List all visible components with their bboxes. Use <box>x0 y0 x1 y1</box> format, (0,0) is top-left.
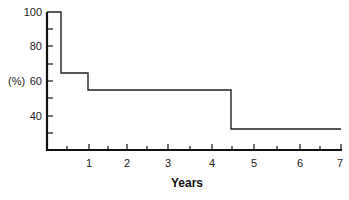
step-series-line <box>47 12 341 129</box>
step-chart: 100 80 60 40 (%) 1 2 3 4 5 6 7 Years <box>0 0 349 200</box>
x-axis-title: Years <box>171 176 203 190</box>
y-axis-title: (%) <box>8 75 25 87</box>
x-tick-label-2: 2 <box>124 157 130 169</box>
x-tick-label-1: 1 <box>86 157 92 169</box>
y-tick-label-60: 60 <box>30 75 42 87</box>
x-tick-label-4: 4 <box>209 157 215 169</box>
y-tick-label-80: 80 <box>30 40 42 52</box>
x-tick-label-5: 5 <box>251 157 257 169</box>
x-tick-label-3: 3 <box>165 157 171 169</box>
x-tick-label-6: 6 <box>297 157 303 169</box>
y-tick-label-100: 100 <box>24 6 42 18</box>
y-tick-label-40: 40 <box>30 110 42 122</box>
x-tick-label-7: 7 <box>337 157 343 169</box>
